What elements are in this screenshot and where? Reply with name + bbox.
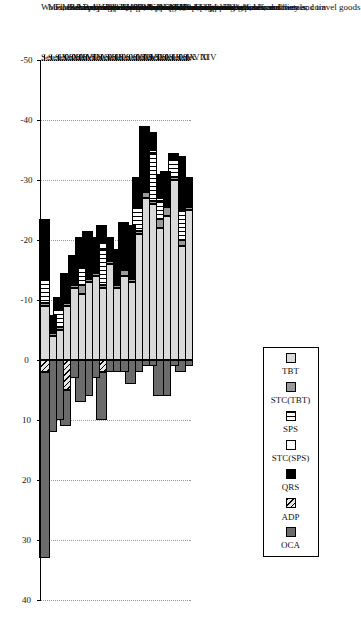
legend-swatch bbox=[286, 440, 296, 450]
legend-label: TBT bbox=[283, 367, 300, 376]
legend-label: STC(TBT) bbox=[271, 396, 311, 405]
value-tick-label: 40 bbox=[17, 596, 37, 605]
plot-area bbox=[41, 60, 191, 600]
value-tick bbox=[37, 480, 41, 481]
value-tick bbox=[37, 120, 41, 121]
value-tick-label: 20 bbox=[17, 476, 37, 485]
legend-item: STC(TBT) bbox=[268, 382, 314, 406]
legend-swatch bbox=[286, 527, 296, 537]
value-tick-label: -30 bbox=[17, 176, 37, 185]
value-tick bbox=[37, 300, 41, 301]
legend-label: OCA bbox=[281, 541, 300, 550]
legend-item: TBT bbox=[268, 353, 314, 377]
legend-swatch bbox=[286, 353, 296, 363]
legend-swatch bbox=[286, 382, 296, 392]
legend-item: OCA bbox=[268, 527, 314, 551]
legend-item: SPS bbox=[268, 411, 314, 435]
value-axis-line bbox=[40, 60, 41, 600]
value-tick bbox=[37, 540, 41, 541]
value-tick-label: -20 bbox=[17, 236, 37, 245]
chart-legend: TBTSTC(TBT)SPSSTC(SPS)QRSADPOCA bbox=[263, 347, 319, 557]
value-tick bbox=[37, 360, 41, 361]
legend-swatch bbox=[286, 498, 296, 508]
legend-item: ADP bbox=[268, 498, 314, 522]
legend-label: SPS bbox=[283, 425, 298, 434]
section-label: Sec. IX bbox=[41, 52, 68, 62]
value-tick-label: 10 bbox=[17, 416, 37, 425]
legend-label: ADP bbox=[282, 512, 300, 521]
value-tick bbox=[37, 240, 41, 241]
value-tick-label: -50 bbox=[17, 56, 37, 65]
gridline bbox=[41, 600, 191, 601]
legend-label: QRS bbox=[282, 483, 300, 492]
value-tick bbox=[37, 60, 41, 61]
value-tick-label: 0 bbox=[17, 356, 37, 365]
value-tick-label: 30 bbox=[17, 536, 37, 545]
legend-swatch bbox=[286, 411, 296, 421]
value-tick-label: -40 bbox=[17, 116, 37, 125]
legend-label: STC(SPS) bbox=[272, 454, 310, 463]
legend-item: STC(SPS) bbox=[268, 440, 314, 464]
value-tick-label: -10 bbox=[17, 296, 37, 305]
legend-item: QRS bbox=[268, 469, 314, 493]
value-tick bbox=[37, 180, 41, 181]
value-tick bbox=[37, 420, 41, 421]
value-tick bbox=[37, 600, 41, 601]
legend-swatch bbox=[286, 469, 296, 479]
category-label: Wood, cork and articles; basketware bbox=[41, 2, 171, 12]
